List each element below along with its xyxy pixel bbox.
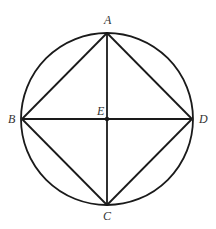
label-a: A [103,13,112,27]
segment-ab [22,33,107,119]
segment-bc [22,119,107,205]
segment-da [107,33,192,119]
label-d: D [198,112,208,126]
diagram-canvas: A B C D E [0,0,216,229]
label-c: C [103,209,112,223]
label-e: E [96,104,105,118]
geometry-figure: A B C D E [0,0,216,229]
segment-cd [107,119,192,205]
center-point-e [105,117,109,121]
label-b: B [8,112,16,126]
